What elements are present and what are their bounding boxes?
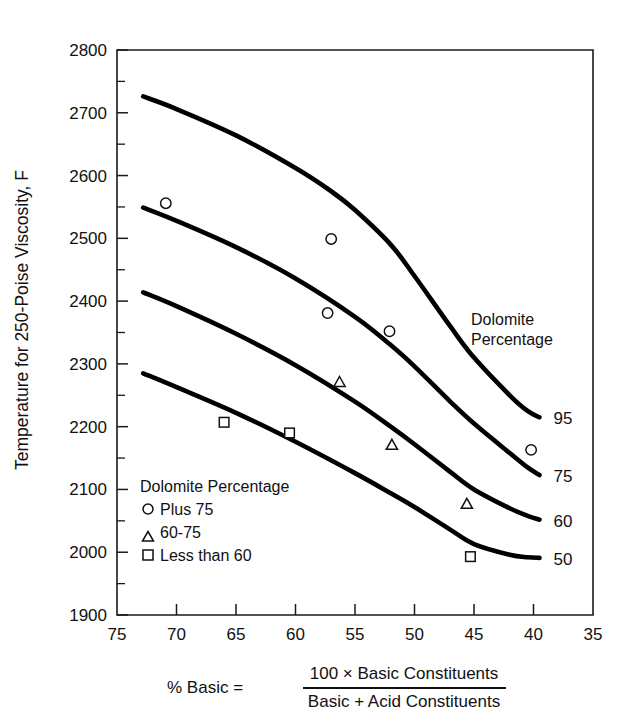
x-tick-label: 50 [405, 625, 424, 644]
data-point-circle [526, 445, 536, 455]
y-tick-label: 2400 [69, 292, 107, 311]
data-point-square [285, 428, 295, 438]
x-tick-label: 60 [286, 625, 305, 644]
y-tick-label: 2500 [69, 229, 107, 248]
y-tick-label: 2800 [69, 41, 107, 60]
x-tick-label: 65 [227, 625, 246, 644]
y-tick-label: 1900 [69, 606, 107, 625]
x-axis-tick-labels: 757065605550454035 [108, 625, 603, 644]
data-point-circle [322, 308, 332, 318]
equation-denominator: Basic + Acid Constituents [308, 692, 500, 711]
y-axis-title: Temperature for 250-Poise Viscosity, F [12, 170, 32, 470]
data-point-square [466, 552, 476, 562]
x-tick-label: 75 [108, 625, 127, 644]
y-tick-label: 2600 [69, 167, 107, 186]
legend-title: Dolomite Percentage [140, 478, 290, 495]
legend-label-less-than-60: Less than 60 [160, 547, 252, 564]
x-tick-label: 55 [346, 625, 365, 644]
curve-end-label-95: 95 [553, 409, 572, 428]
equation-lhs: % Basic = [167, 678, 243, 697]
data-point-circle [161, 198, 171, 208]
x-tick-label: 40 [524, 625, 543, 644]
y-tick-label: 2700 [69, 104, 107, 123]
data-point-circle [326, 234, 336, 244]
y-tick-label: 2200 [69, 418, 107, 437]
legend-label-60-75: 60-75 [160, 524, 201, 541]
x-tick-label: 45 [465, 625, 484, 644]
legend-marker-square-icon [143, 550, 153, 560]
curve-end-label-75: 75 [553, 467, 572, 486]
curve-end-label-60: 60 [553, 512, 572, 531]
x-tick-label: 70 [167, 625, 186, 644]
y-tick-label: 2100 [69, 480, 107, 499]
x-tick-label: 35 [584, 625, 603, 644]
y-tick-label: 2300 [69, 355, 107, 374]
y-tick-label: 2000 [69, 543, 107, 562]
equation-numerator: 100 × Basic Constituents [310, 664, 499, 683]
legend-label-plus-75: Plus 75 [160, 501, 213, 518]
curve-group-title-line1: Dolomite [471, 311, 534, 328]
data-point-circle [384, 326, 394, 336]
legend-marker-circle-icon [143, 504, 153, 514]
curve-group-title-line2: Percentage [471, 331, 553, 348]
viscosity-chart: 2800270026002500240023002200210020001900… [0, 0, 633, 728]
figure-container: 2800270026002500240023002200210020001900… [0, 0, 633, 728]
data-point-square [219, 417, 229, 427]
curve-end-label-50: 50 [553, 550, 572, 569]
